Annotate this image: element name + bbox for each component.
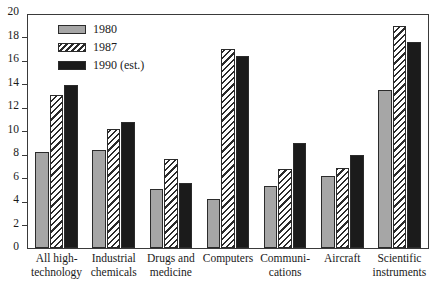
y-axis-tick-label: 12 — [8, 100, 20, 111]
y-axis-tick-label: 18 — [8, 30, 20, 41]
legend-swatch-1987-icon — [58, 43, 86, 52]
bar — [278, 169, 292, 248]
bar-group — [378, 15, 421, 248]
bar — [378, 90, 392, 248]
y-axis-tick-label: 6 — [13, 171, 19, 182]
bar — [293, 143, 307, 248]
y-axis-tick-label: 2 — [13, 218, 19, 229]
bar — [321, 176, 335, 248]
legend-swatch-1990-icon — [58, 61, 86, 70]
bar — [164, 159, 178, 248]
bar — [407, 42, 421, 248]
bar — [107, 129, 121, 248]
bar-group — [321, 15, 364, 248]
bar — [35, 152, 49, 248]
legend-swatch-1980-icon — [58, 25, 86, 34]
bar — [336, 168, 350, 248]
legend-entry-1990: 1990 (est.) — [58, 57, 188, 73]
y-axis-tick-label: 20 — [8, 6, 20, 17]
y-axis-tick-label: 14 — [8, 77, 20, 88]
bar — [92, 150, 106, 248]
legend-label-1990: 1990 (est.) — [93, 59, 144, 72]
x-axis-category-label: Scientificinstruments — [365, 251, 434, 279]
bar — [179, 183, 193, 248]
bar — [207, 199, 221, 248]
legend-entry-1987: 1987 — [58, 39, 188, 55]
bar — [350, 155, 364, 248]
y-axis: 02468101214161820 — [0, 14, 27, 249]
y-axis-tick-label: 16 — [8, 53, 20, 64]
legend-entry-1980: 1980 — [58, 21, 188, 37]
bar — [150, 189, 164, 248]
legend-label-1987: 1987 — [93, 41, 117, 54]
bar-group — [264, 15, 307, 248]
bar — [64, 85, 78, 248]
x-axis-labels: All high-technologyIndustrialchemicalsDr… — [28, 251, 428, 289]
y-axis-tick-label: 10 — [8, 124, 20, 135]
y-axis-tick-label: 0 — [13, 241, 19, 252]
legend-label-1980: 1980 — [93, 23, 117, 36]
bar-chart: 02468101214161820 All high-technologyInd… — [0, 0, 436, 290]
bar — [50, 95, 64, 248]
bar — [264, 186, 278, 248]
legend: 1980 1987 1990 (est.) — [58, 21, 188, 75]
bar — [236, 56, 250, 248]
bar — [221, 49, 235, 248]
y-axis-tick-label: 8 — [13, 147, 19, 158]
bar — [121, 122, 135, 248]
bar-group — [207, 15, 250, 248]
bar — [393, 26, 407, 249]
y-axis-tick-label: 4 — [13, 194, 19, 205]
